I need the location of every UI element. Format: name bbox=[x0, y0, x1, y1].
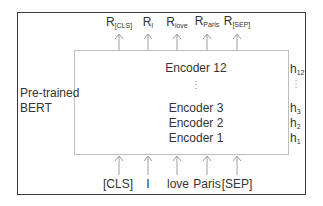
output-arrow-icon bbox=[173, 34, 181, 50]
output-arrow-icon bbox=[233, 34, 241, 50]
input-arrow-icon bbox=[203, 156, 211, 175]
input-arrow-icon bbox=[233, 156, 241, 175]
output-arrow-icon bbox=[115, 34, 123, 50]
output-arrow-icon bbox=[203, 34, 211, 50]
input-arrow-icon bbox=[144, 156, 152, 175]
input-arrow-icon bbox=[173, 156, 181, 175]
output-arrow-icon bbox=[144, 34, 152, 50]
arrows-layer bbox=[0, 0, 323, 206]
input-arrow-icon bbox=[115, 156, 123, 175]
